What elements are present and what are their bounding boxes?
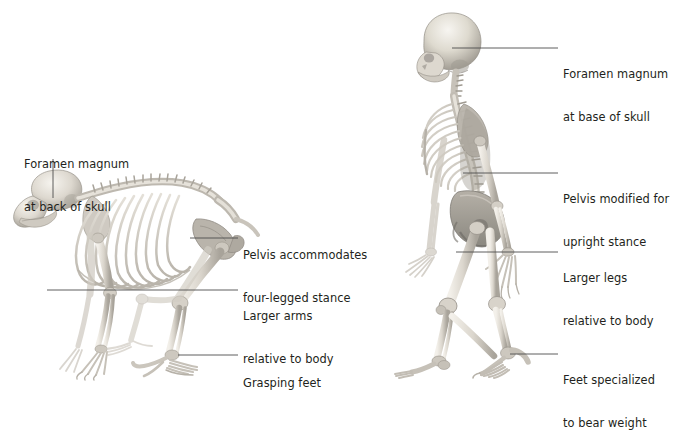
label-foramen-magnum-human: Foramen magnum at base of skull <box>563 39 668 153</box>
label-line-1: Pelvis accommodates <box>243 248 367 262</box>
label-line-1: Larger legs <box>563 271 654 285</box>
human-leg-rear <box>395 222 485 379</box>
label-line-1: Pelvis modified for <box>563 192 669 206</box>
human-sternum <box>425 130 427 174</box>
label-line-2: to bear weight <box>563 416 655 430</box>
label-foramen-magnum-ape: Foramen magnum at back of skull <box>24 129 129 243</box>
label-line-1: Grasping feet <box>243 376 321 390</box>
label-larger-legs-human: Larger legs relative to body <box>563 243 654 357</box>
label-line-2: at back of skull <box>24 200 129 214</box>
label-feet-specialized-human: Feet specialized to bear weight <box>563 345 655 434</box>
human-skull <box>417 13 481 82</box>
label-line-1: Larger arms <box>243 309 334 323</box>
label-line-1: Foramen magnum <box>563 67 668 81</box>
label-line-2: at base of skull <box>563 110 668 124</box>
label-grasping-feet-ape: Grasping feet <box>243 348 321 419</box>
ape-hindlimb-far <box>102 250 208 355</box>
label-line-1: Foramen magnum <box>24 157 129 171</box>
label-line-1: Feet specialized <box>563 373 655 387</box>
label-line-2: relative to body <box>563 314 654 328</box>
